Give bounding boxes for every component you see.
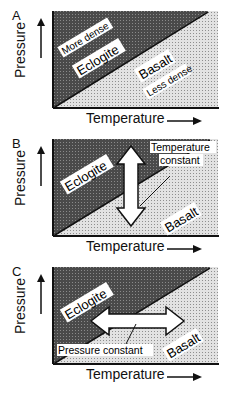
panel-c: C Pressure Pressure constant Eclogite Ba… — [0, 264, 230, 392]
arrow-label-line1: Temperature — [151, 141, 210, 153]
panel-b: B Pressure Temperature constant Eclogite… — [0, 136, 230, 264]
arrow-label: Pressure constant — [58, 344, 143, 356]
x-axis-label: Temperature — [86, 238, 165, 254]
panel-a: A Pressure More dense Eclogite Basalt Le… — [0, 8, 230, 136]
x-axis-label: Temperature — [86, 110, 165, 126]
arrow-label-line2: constant — [160, 154, 200, 166]
x-axis-label: Temperature — [86, 366, 165, 382]
